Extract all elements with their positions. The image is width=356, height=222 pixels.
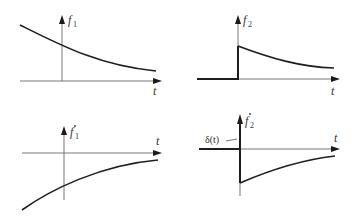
y-label-subscript: 1: [75, 132, 79, 141]
x-axis-arrow-icon: [331, 76, 340, 82]
step-segment: [197, 46, 238, 79]
panel-f2: f 2 t: [197, 13, 340, 98]
curve-f1-dot: [22, 160, 158, 210]
y-axis-arrow-icon: [235, 15, 241, 24]
x-axis-arrow-icon: [153, 150, 162, 156]
impulse-leader-line: [226, 139, 237, 141]
curve-f2-dot: [240, 156, 335, 183]
x-label: t: [153, 84, 157, 98]
curve-f1: [20, 25, 156, 71]
impulse-label: δ(t): [205, 134, 219, 146]
y-label-subscript: 1: [73, 20, 77, 29]
y-axis-arrow-icon: [61, 126, 67, 135]
diagram-canvas: f 1 t f 2 t f 1 t f 2 δ(t): [0, 0, 356, 222]
step-segment: [199, 149, 240, 183]
panel-f1: f 1 t: [20, 13, 162, 98]
y-axis-arrow-icon: [59, 15, 65, 24]
x-label: t: [156, 134, 160, 148]
panel-f1-dot: f 1 t: [22, 125, 162, 210]
derivative-dot-icon: [249, 113, 251, 115]
x-label: t: [334, 131, 338, 145]
derivative-dot-icon: [74, 125, 76, 127]
x-label: t: [331, 84, 335, 98]
panel-f2-dot: f 2 δ(t) t: [199, 113, 340, 196]
y-label-subscript: 2: [248, 20, 252, 29]
y-label-subscript: 2: [250, 121, 254, 130]
curve-f2: [238, 46, 334, 68]
x-axis-arrow-icon: [331, 146, 340, 152]
